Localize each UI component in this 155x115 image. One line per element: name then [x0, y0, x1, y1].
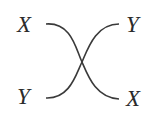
crossing-lines	[0, 0, 155, 115]
curve-y-to-y	[46, 24, 119, 98]
